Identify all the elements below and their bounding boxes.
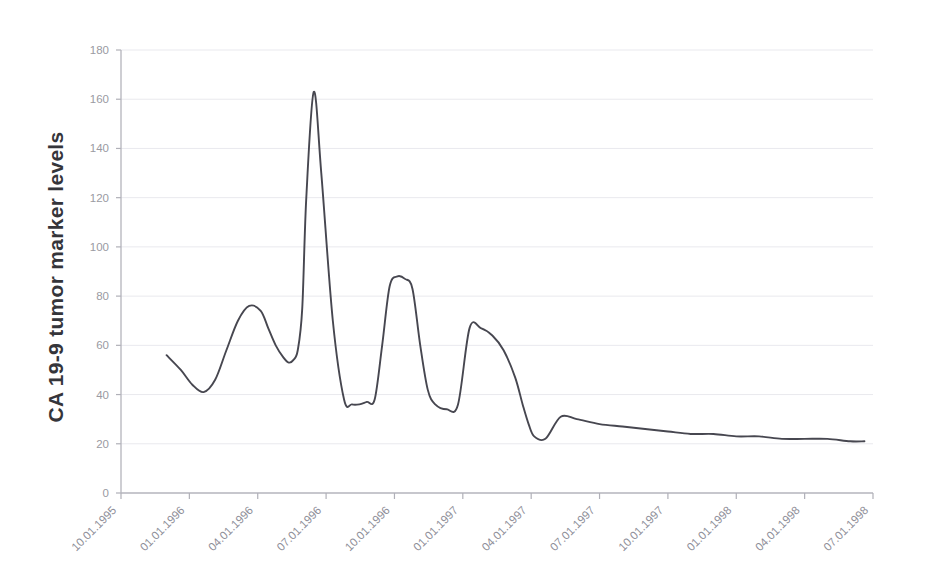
x-tick-label: 04.01.1997 bbox=[479, 504, 528, 553]
y-tick-labels-group: 020406080100120140160180 bbox=[90, 44, 109, 499]
x-tick-label: 01.01.1996 bbox=[138, 504, 187, 553]
line-chart: 020406080100120140160180 10.01.199501.01… bbox=[0, 0, 937, 585]
y-tick-label: 160 bbox=[90, 93, 109, 105]
data-series-line bbox=[167, 92, 865, 442]
x-tick-label: 04.01.1998 bbox=[753, 504, 802, 553]
x-tick-labels-group: 10.01.199501.01.199604.01.199607.01.1996… bbox=[69, 504, 870, 553]
x-tick-label: 04.01.1996 bbox=[206, 504, 255, 553]
x-tick-label: 10.01.1996 bbox=[343, 504, 392, 553]
x-tick-label: 01.01.1998 bbox=[684, 504, 733, 553]
gridlines-group bbox=[116, 50, 873, 493]
x-tick-marks-group bbox=[121, 493, 873, 499]
y-tick-label: 60 bbox=[96, 339, 109, 351]
x-tick-label: 10.01.1995 bbox=[69, 504, 118, 553]
y-tick-label: 180 bbox=[90, 44, 109, 56]
axes-group bbox=[121, 50, 873, 493]
y-tick-label: 40 bbox=[96, 389, 109, 401]
x-tick-label: 07.01.1998 bbox=[821, 504, 870, 553]
data-series-group bbox=[167, 92, 865, 442]
y-tick-label: 100 bbox=[90, 241, 109, 253]
y-tick-label: 20 bbox=[96, 438, 109, 450]
chart-page: CA 19-9 tumor marker levels 020406080100… bbox=[0, 0, 937, 585]
y-tick-label: 120 bbox=[90, 192, 109, 204]
y-tick-label: 80 bbox=[96, 290, 109, 302]
x-tick-label: 10.01.1997 bbox=[616, 504, 665, 553]
x-tick-label: 07.01.1996 bbox=[274, 504, 323, 553]
x-tick-label: 01.01.1997 bbox=[411, 504, 460, 553]
x-tick-label: 07.01.1997 bbox=[548, 504, 597, 553]
y-tick-label: 140 bbox=[90, 142, 109, 154]
y-tick-label: 0 bbox=[103, 487, 109, 499]
